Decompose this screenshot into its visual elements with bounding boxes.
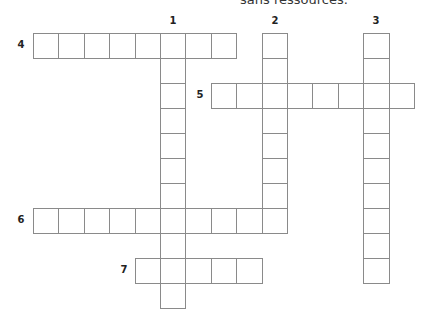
- grid-cell[interactable]: [236, 83, 262, 109]
- grid-cell[interactable]: [363, 83, 389, 109]
- grid-cell[interactable]: [262, 83, 288, 109]
- grid-cell[interactable]: [160, 183, 186, 209]
- grid-cell[interactable]: [363, 158, 389, 184]
- grid-cell[interactable]: [363, 133, 389, 159]
- grid-cell[interactable]: [109, 33, 135, 59]
- grid-cell[interactable]: [160, 283, 186, 309]
- grid-cell[interactable]: [135, 33, 161, 59]
- grid-cell[interactable]: [84, 208, 110, 234]
- grid-cell[interactable]: [262, 33, 288, 59]
- grid-cell[interactable]: [160, 58, 186, 84]
- grid-cell[interactable]: [312, 83, 338, 109]
- grid-cell[interactable]: [185, 258, 211, 284]
- grid-cell[interactable]: [363, 58, 389, 84]
- grid-cell[interactable]: [160, 158, 186, 184]
- grid-cell[interactable]: [211, 83, 237, 109]
- grid-cell[interactable]: [389, 83, 415, 109]
- clue-number-1: 1: [166, 16, 180, 26]
- grid-cell[interactable]: [160, 233, 186, 259]
- grid-cell[interactable]: [160, 208, 186, 234]
- grid-cell[interactable]: [160, 258, 186, 284]
- clue-number-7: 7: [117, 265, 131, 275]
- grid-cell[interactable]: [363, 33, 389, 59]
- grid-cell[interactable]: [160, 133, 186, 159]
- clue-number-5: 5: [193, 90, 207, 100]
- grid-cell[interactable]: [363, 183, 389, 209]
- grid-cell[interactable]: [236, 208, 262, 234]
- clue-number-4: 4: [14, 40, 28, 50]
- clue-number-2: 2: [268, 16, 282, 26]
- grid-cell[interactable]: [363, 233, 389, 259]
- grid-cell[interactable]: [84, 33, 110, 59]
- crossword-grid: 1 2 3 4 5 6 7: [0, 0, 433, 328]
- grid-cell[interactable]: [185, 208, 211, 234]
- grid-cell[interactable]: [211, 208, 237, 234]
- grid-cell[interactable]: [109, 208, 135, 234]
- grid-cell[interactable]: [160, 33, 186, 59]
- clue-number-3: 3: [369, 16, 383, 26]
- grid-cell[interactable]: [135, 208, 161, 234]
- grid-cell[interactable]: [363, 258, 389, 284]
- grid-cell[interactable]: [287, 83, 313, 109]
- grid-cell[interactable]: [236, 258, 262, 284]
- grid-cell[interactable]: [211, 33, 237, 59]
- grid-cell[interactable]: [211, 258, 237, 284]
- grid-cell[interactable]: [363, 108, 389, 134]
- clue-number-6: 6: [14, 215, 28, 225]
- grid-cell[interactable]: [363, 208, 389, 234]
- grid-cell[interactable]: [262, 183, 288, 209]
- grid-cell[interactable]: [262, 208, 288, 234]
- grid-cell[interactable]: [160, 83, 186, 109]
- grid-cell[interactable]: [262, 158, 288, 184]
- grid-cell[interactable]: [262, 133, 288, 159]
- grid-cell[interactable]: [338, 83, 364, 109]
- grid-cell[interactable]: [135, 258, 161, 284]
- grid-cell[interactable]: [262, 58, 288, 84]
- grid-cell[interactable]: [33, 208, 59, 234]
- grid-cell[interactable]: [160, 108, 186, 134]
- grid-cell[interactable]: [58, 208, 84, 234]
- grid-cell[interactable]: [33, 33, 59, 59]
- grid-cell[interactable]: [262, 108, 288, 134]
- grid-cell[interactable]: [185, 33, 211, 59]
- grid-cell[interactable]: [58, 33, 84, 59]
